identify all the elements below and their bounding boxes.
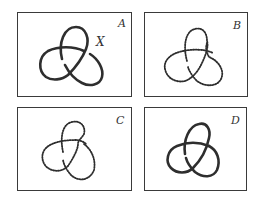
panel-c: C (17, 107, 132, 191)
crossing-label-x: X (96, 35, 105, 49)
trefoil-knot-solid-icon (18, 13, 133, 98)
panel-b: B (144, 12, 248, 97)
panel-a: X A (17, 12, 132, 97)
panel-d: D (144, 107, 247, 191)
panel-label-c: C (116, 114, 124, 127)
panel-label-d: D (231, 114, 240, 127)
panel-label-b: B (233, 19, 241, 32)
panel-label-a: A (118, 17, 126, 30)
